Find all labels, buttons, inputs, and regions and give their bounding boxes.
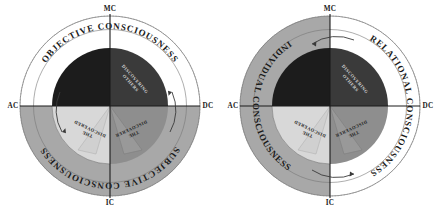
axis-label-mc: MC xyxy=(324,5,337,13)
figure-canvas: OBJECTIVE CONSCIOUSNESS SUBJECTIVE CONSC… xyxy=(0,0,439,212)
right-diagram-svg: INDIVIDUAL CONSCIOUSNESS RELATIONAL CONS… xyxy=(220,0,439,212)
axis-label-dc: DC xyxy=(423,102,434,110)
axis-label-ac: AC xyxy=(8,102,19,110)
axis-label-dc: DC xyxy=(203,102,214,110)
axis-label-ic: IC xyxy=(106,199,115,207)
diagram-individual-relational: INDIVIDUAL CONSCIOUSNESS RELATIONAL CONS… xyxy=(220,0,439,212)
axis-label-ac: AC xyxy=(228,102,239,110)
left-diagram-svg: OBJECTIVE CONSCIOUSNESS SUBJECTIVE CONSC… xyxy=(0,0,219,212)
axis-label-mc: MC xyxy=(104,5,117,13)
axis-label-ic: IC xyxy=(326,199,335,207)
diagram-objective-subjective: OBJECTIVE CONSCIOUSNESS SUBJECTIVE CONSC… xyxy=(0,0,219,212)
